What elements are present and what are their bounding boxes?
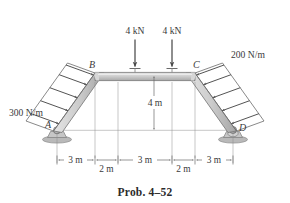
dimension-4-label: 2 m [176,164,191,174]
dimension-chain: 3 m 2 m 3 m 2 m 3 m [57,154,233,175]
dimension-3-label: 3 m [138,155,153,165]
point-load-left-label: 4 kN [126,25,145,36]
joint-label-a: A [44,119,52,130]
point-load-left: 4 kN [126,25,145,73]
point-load-right: 4 kN [163,25,182,73]
figure-caption: Prob. 4–52 [0,186,290,198]
joint-label-d: D [238,122,247,133]
point-load-right-label: 4 kN [163,25,182,36]
dimension-vertical-label: 4 m [148,97,163,108]
dimension-5-label: 3 m [207,155,222,165]
figure-container: 300 N/m 200 N/m 4 kN 4 kN [0,0,290,203]
dimension-2-label: 2 m [99,164,114,174]
joint-label-c: C [193,59,200,70]
distributed-load-right-label: 200 N/m [231,49,265,60]
distributed-load-left-label: 300 N/m [9,107,43,118]
frame-diagram: 300 N/m 200 N/m 4 kN 4 kN [0,0,290,203]
dimension-vertical-4m: 4 m [144,77,166,130]
joint-label-b: B [89,59,95,70]
member-bc [95,72,195,80]
dimension-1-label: 3 m [68,155,83,165]
